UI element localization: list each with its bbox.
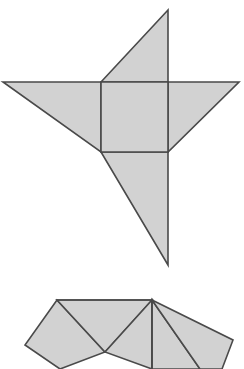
central-square (101, 82, 168, 152)
geometry-figure-canvas (0, 0, 244, 369)
